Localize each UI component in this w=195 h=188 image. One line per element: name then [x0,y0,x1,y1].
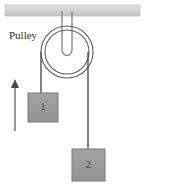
block-two: 2 [72,149,105,181]
pulley-label: Pulley [9,29,38,41]
pulley-diagram-canvas: 1 2 Pulley [0,0,195,188]
direction-arrow-up-icon [11,79,19,131]
block-two-label: 2 [86,159,91,170]
pulley-wheel [41,26,93,78]
pulley-diagram: 1 2 Pulley [0,0,195,188]
hook-rod [62,11,72,56]
block-one-label: 1 [41,101,46,112]
arrow-head [11,79,19,88]
pulley-inner-circle [45,30,89,74]
block-one: 1 [28,93,58,122]
pulley-mounting-hook [62,11,72,56]
pulley-outer-circle [41,26,93,78]
